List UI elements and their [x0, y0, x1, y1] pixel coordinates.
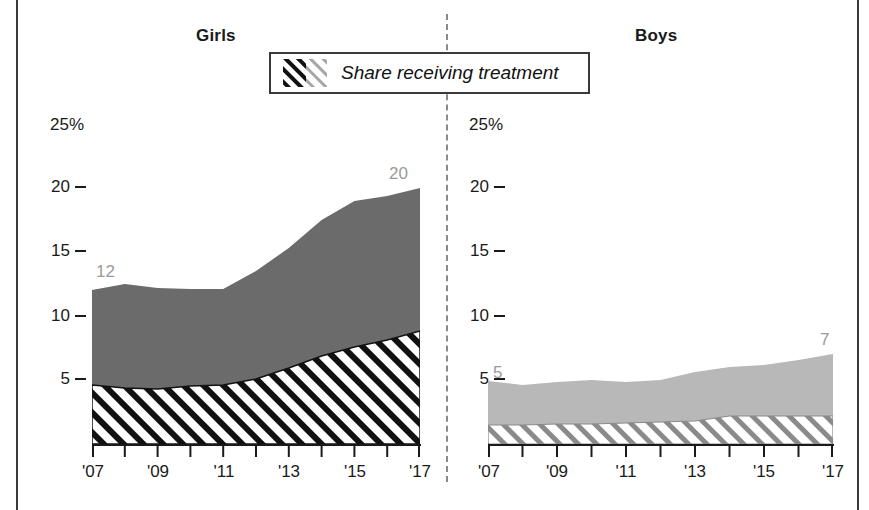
y-axis-dash-15 [75, 250, 86, 252]
plot-area-girls [92, 100, 420, 448]
x-tick-label-boys-11: '11 [601, 462, 651, 482]
frame-left-rule [16, 0, 18, 510]
value-label-boys-last: 7 [820, 330, 829, 350]
x-tick-label-boys-15: '15 [739, 462, 789, 482]
figure-canvas: Girls Boys Share receiving treatment 25%… [0, 0, 869, 510]
frame-right-rule [857, 0, 859, 510]
y-tick-label-5: 5 [36, 369, 70, 389]
legend: Share receiving treatment [269, 52, 590, 94]
y-axis-dash-10 [75, 315, 86, 317]
y-tick-label-15: 15 [36, 241, 70, 261]
x-axis-ticks-girls [92, 444, 422, 458]
x-tick-label-girls-07: '07 [68, 462, 118, 482]
legend-label: Share receiving treatment [341, 62, 559, 84]
y-tick-label-boys-10: 10 [455, 306, 489, 326]
plot-area-boys [488, 100, 833, 448]
y-tick-label-10: 10 [36, 306, 70, 326]
x-tick-label-boys-07: '07 [464, 462, 514, 482]
y-tick-label-boys-20: 20 [455, 177, 489, 197]
x-tick-label-boys-13: '13 [670, 462, 720, 482]
x-tick-label-girls-15: '15 [330, 462, 380, 482]
y-tick-label-boys-15: 15 [455, 241, 489, 261]
panel-title-girls: Girls [196, 26, 236, 46]
x-tick-label-boys-17: '17 [808, 462, 858, 482]
value-label-girls-first: 12 [96, 262, 115, 282]
x-tick-label-boys-09: '09 [532, 462, 582, 482]
x-tick-label-girls-11: '11 [199, 462, 249, 482]
y-tick-label-boys-5: 5 [455, 369, 489, 389]
x-tick-label-girls-13: '13 [264, 462, 314, 482]
value-label-girls-last: 20 [389, 164, 408, 184]
x-tick-label-girls-09: '09 [133, 462, 183, 482]
x-tick-label-girls-17: '17 [395, 462, 445, 482]
value-label-boys-first: 5 [493, 363, 502, 383]
panel-title-boys: Boys [635, 26, 677, 46]
y-axis-dash-20 [75, 186, 86, 188]
x-axis-ticks-boys [488, 444, 835, 458]
diagonal-hatch-swatch [283, 59, 327, 87]
y-tick-label-20: 20 [36, 177, 70, 197]
y-tick-label-25: 25% [36, 115, 84, 135]
y-axis-dash-5 [75, 378, 86, 380]
